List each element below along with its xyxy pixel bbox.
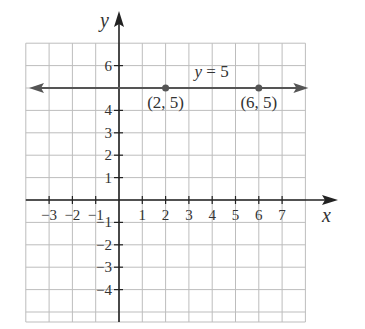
y-tick-label: 3 — [105, 125, 113, 141]
y-tick-label: −4 — [96, 282, 112, 298]
x-tick-label: 4 — [208, 207, 216, 223]
point-label: (2, 5) — [147, 93, 184, 112]
y-tick-label: −1 — [96, 214, 112, 230]
line-y-equals-5: y = 5(2, 5)(6, 5) — [29, 62, 308, 112]
x-tick-label: 3 — [185, 207, 193, 223]
data-point — [255, 85, 262, 92]
y-axis-label: y — [98, 9, 109, 32]
y-tick-label: −3 — [96, 259, 112, 275]
y-tick-label: 2 — [105, 147, 113, 163]
y-tick-label: 4 — [105, 102, 113, 118]
x-tick-label: 2 — [162, 207, 170, 223]
x-tick-label: 7 — [278, 207, 286, 223]
x-tick-label: 1 — [139, 207, 147, 223]
y-tick-label: 6 — [105, 58, 113, 74]
point-label: (6, 5) — [240, 93, 277, 112]
line-equation-label: y = 5 — [193, 62, 229, 81]
x-axis-label: x — [321, 204, 331, 226]
x-tick-label: 5 — [232, 207, 240, 223]
x-tick-label: −2 — [64, 207, 80, 223]
data-point — [162, 85, 169, 92]
x-tick-label: −3 — [41, 207, 57, 223]
y-tick-label: 1 — [105, 170, 113, 186]
x-tick-label: 6 — [255, 207, 263, 223]
coordinate-plane: −3−2−1123456764321−1−2−3−4 y = 5(2, 5)(6… — [0, 0, 365, 329]
y-tick-label: −2 — [96, 237, 112, 253]
